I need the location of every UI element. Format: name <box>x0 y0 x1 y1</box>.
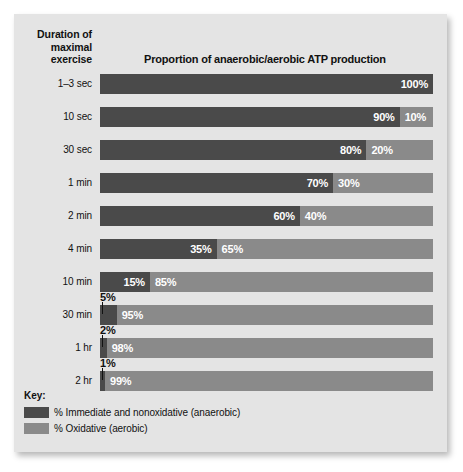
bar-segment-aerobic-value: 10% <box>405 111 426 123</box>
chart-legend: Key: % Immediate and nonoxidative (anaer… <box>24 390 444 439</box>
chart-row: 10 sec90%10% <box>14 107 447 127</box>
legend-title: Key: <box>24 390 444 401</box>
chart-row: 1 min70%30% <box>14 173 447 193</box>
bar-segment-aerobic-value: 98% <box>112 342 133 354</box>
bar-segment-anaerobic <box>100 338 107 358</box>
legend-item: % Immediate and nonoxidative (anaerobic) <box>24 407 444 418</box>
legend-item-label: % Immediate and nonoxidative (anaerobic) <box>54 407 240 418</box>
stacked-bar: 15%85% <box>100 272 433 292</box>
bar-callout-leader-line <box>102 302 103 314</box>
bar-segment-anaerobic: 15% <box>100 272 150 292</box>
legend-item-list: % Immediate and nonoxidative (anaerobic)… <box>24 407 444 434</box>
row-category-label: 1 min <box>14 177 92 188</box>
stacked-bar: 70%30% <box>100 173 433 193</box>
chart-row: 1–3 sec100% <box>14 74 447 94</box>
bar-segment-aerobic-value: 30% <box>338 177 359 189</box>
bar-segment-anaerobic: 60% <box>100 206 300 226</box>
bar-segment-aerobic-value: 99% <box>110 375 131 387</box>
row-category-label: 2 hr <box>14 375 92 386</box>
bar-segment-aerobic-value: 65% <box>222 243 243 255</box>
bar-segment-anaerobic: 70% <box>100 173 333 193</box>
row-category-label: 10 sec <box>14 111 92 122</box>
chart-row: 30 min95%5% <box>14 305 447 325</box>
bar-segment-aerobic: 85% <box>150 272 433 292</box>
row-category-label: 1–3 sec <box>14 78 92 89</box>
bar-segment-anaerobic: 35% <box>100 239 217 259</box>
row-category-label: 2 min <box>14 210 92 221</box>
bar-segment-aerobic: 30% <box>333 173 433 193</box>
bar-segment-anaerobic-value: 80% <box>340 144 361 156</box>
stacked-bar: 98% <box>100 338 433 358</box>
bar-segment-aerobic-value: 40% <box>305 210 326 222</box>
figure-panel: Duration ofmaximalexercise Proportion of… <box>14 14 447 452</box>
bar-segment-aerobic-value: 20% <box>371 144 392 156</box>
bar-segment-aerobic: 95% <box>117 305 433 325</box>
bar-segment-aerobic-value: 95% <box>122 309 143 321</box>
chart-title: Proportion of anaerobic/aerobic ATP prod… <box>100 53 430 65</box>
bar-callout-leader-line <box>102 368 103 380</box>
stacked-bar: 90%10% <box>100 107 433 127</box>
bar-callout-leader-line <box>102 335 103 347</box>
bar-segment-aerobic-value: 85% <box>155 276 176 288</box>
stacked-bar: 60%40% <box>100 206 433 226</box>
bar-segment-anaerobic-value: 60% <box>273 210 294 222</box>
bar-segment-aerobic: 40% <box>300 206 433 226</box>
bar-segment-aerobic: 20% <box>366 140 433 160</box>
row-category-label: 30 min <box>14 309 92 320</box>
stacked-bar: 99% <box>100 371 433 391</box>
bar-segment-anaerobic-value: 15% <box>124 276 145 288</box>
bar-segment-anaerobic: 80% <box>100 140 366 160</box>
bar-segment-anaerobic-value: 90% <box>373 111 394 123</box>
chart-row: 2 hr99%1% <box>14 371 447 391</box>
stacked-bar: 100% <box>100 74 433 94</box>
row-category-label: 1 hr <box>14 342 92 353</box>
chart-row: 30 sec80%20% <box>14 140 447 160</box>
legend-item-label: % Oxidative (aerobic) <box>54 423 148 434</box>
bar-segment-anaerobic-value: 100% <box>401 78 428 90</box>
legend-swatch-aerobic <box>24 423 49 434</box>
chart-row: 10 min15%85% <box>14 272 447 292</box>
bar-segment-anaerobic: 90% <box>100 107 400 127</box>
bar-segment-anaerobic-value: 35% <box>190 243 211 255</box>
chart-row: 4 min35%65% <box>14 239 447 259</box>
bar-segment-aerobic: 98% <box>107 338 433 358</box>
stacked-bar: 35%65% <box>100 239 433 259</box>
bar-segment-aerobic: 99% <box>105 371 433 391</box>
row-category-label: 30 sec <box>14 144 92 155</box>
legend-swatch-anaerobic <box>24 407 49 418</box>
row-category-label: 4 min <box>14 243 92 254</box>
bar-segment-anaerobic-value: 70% <box>307 177 328 189</box>
stacked-bar: 80%20% <box>100 140 433 160</box>
row-header-label: Duration ofmaximalexercise <box>14 28 92 66</box>
chart-row: 2 min60%40% <box>14 206 447 226</box>
legend-item: % Oxidative (aerobic) <box>24 423 444 434</box>
row-category-label: 10 min <box>14 276 92 287</box>
bar-segment-anaerobic: 100% <box>100 74 433 94</box>
bar-segment-aerobic: 10% <box>400 107 433 127</box>
stacked-bar: 95% <box>100 305 433 325</box>
bar-segment-aerobic: 65% <box>217 239 433 259</box>
chart-row: 1 hr98%2% <box>14 338 447 358</box>
